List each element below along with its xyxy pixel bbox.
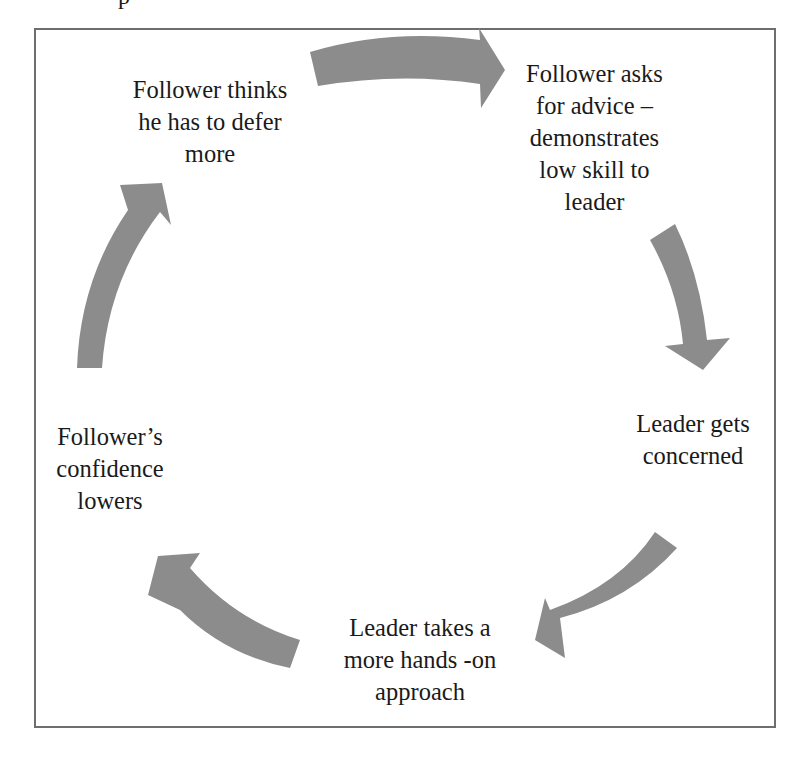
arrow-n3-to-n4-icon (535, 532, 677, 658)
arrow-n1-to-n2-icon (310, 28, 505, 108)
cycle-node-follower-asks-advice: Follower asks for advice – demonstrates … (492, 58, 697, 218)
cycle-node-confidence-lowers: Follower’s confidence lowers (35, 421, 185, 517)
arrow-n5-to-n1-icon (77, 183, 171, 368)
arrow-n2-to-n3-icon (650, 224, 730, 370)
cycle-node-leader-concerned: Leader gets concerned (608, 408, 778, 472)
cycle-node-follower-defers: Follower thinks he has to defer more (110, 74, 310, 170)
cycle-node-leader-hands-on: Leader takes a more hands -on approach (310, 612, 530, 708)
arrow-n4-to-n5-icon (148, 553, 300, 668)
